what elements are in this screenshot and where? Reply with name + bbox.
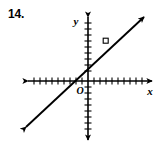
graph-problem-figure: 14. — [0, 0, 166, 147]
origin-label: O — [76, 85, 83, 96]
y-axis-label: y — [72, 15, 79, 27]
point-marker-square — [103, 38, 108, 43]
y-axis — [85, 17, 92, 140]
x-axis — [28, 78, 152, 85]
x-axis-label: x — [146, 85, 153, 97]
coordinate-plane-graph: y x O — [0, 0, 166, 147]
